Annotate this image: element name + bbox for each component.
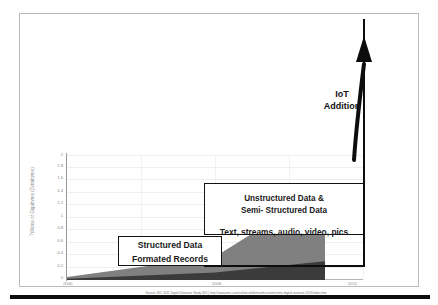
y-tick-1.4: 1.4 [37, 188, 63, 193]
iot-label-line1: IoT [312, 88, 372, 100]
y-tick-0.8: 0.8 [37, 225, 63, 230]
y-tick-1.6: 1.6 [37, 175, 63, 180]
y-tick-1.2: 1.2 [37, 200, 63, 205]
x-axis-ticks: 2000 2006 2011 [67, 281, 364, 290]
x-tick-2000: 2000 [63, 281, 72, 286]
y-tick-0.6: 0.6 [37, 238, 63, 243]
callout-unstructured-line3: Text, streams, audio, video, pics [205, 226, 363, 238]
y-axis-title: Trillions of Gigabytes (Zettabytes) [30, 143, 35, 261]
y-tick-0.4: 0.4 [37, 250, 63, 255]
y-tick-1.8: 1.8 [37, 163, 63, 168]
callout-structured-line2: Formated Records [119, 252, 221, 266]
x-tick-2011: 2011 [348, 281, 357, 286]
x-tick-2006: 2006 [212, 281, 221, 286]
slide-canvas: 2 1.8 1.6 1.4 1.2 1 0.8 0.6 0.4 0.2 0 Tr… [0, 0, 438, 305]
callout-unstructured-data: Unstructured Data & Semi- Structured Dat… [204, 183, 364, 235]
y-tick-0.2: 0.2 [37, 263, 63, 268]
y-tick-2: 2 [37, 152, 63, 157]
y-tick-0: 0 [37, 275, 63, 280]
bracket-vertical-line [363, 19, 365, 267]
iot-addition-label: IoT Addition [312, 88, 372, 112]
callout-unstructured-line1: Unstructured Data & [205, 193, 363, 205]
bracket-horizontal-line [204, 265, 365, 267]
callout-unstructured-line2: Semi- Structured Data [205, 205, 363, 217]
callout-structured-line1: Structured Data [119, 238, 221, 252]
y-axis-line [66, 153, 67, 281]
y-axis-ticks: 2 1.8 1.6 1.4 1.2 1 0.8 0.6 0.4 0.2 0 [33, 153, 63, 281]
callout-structured-data: Structured Data Formated Records [118, 236, 222, 266]
iot-label-line2: Addition [312, 100, 372, 112]
bottom-rule [10, 295, 430, 299]
y-tick-1: 1 [37, 213, 63, 218]
